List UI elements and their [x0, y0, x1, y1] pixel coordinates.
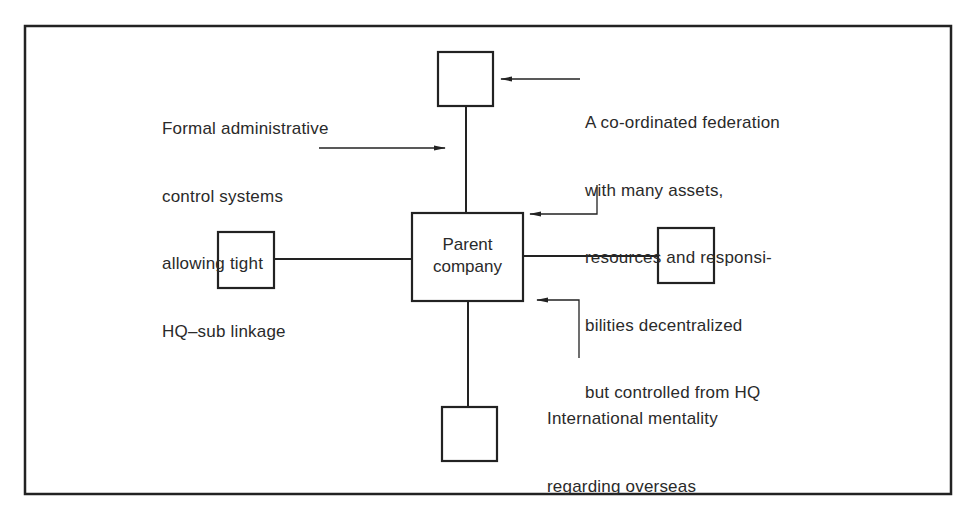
parent-company-label-line: Parent	[412, 234, 523, 256]
annotation-line: regarding overseas	[547, 476, 743, 499]
annotation-international-mentality: International mentality regarding overse…	[547, 363, 743, 523]
subsidiary-node-bottom	[442, 407, 497, 461]
annotation-line: A co-ordinated federation	[585, 112, 780, 135]
annotation-line: resources and responsi-	[585, 247, 780, 270]
annotation-line: HQ–sub linkage	[162, 321, 329, 344]
subsidiary-node-top	[438, 52, 493, 106]
annotation-formal-control: Formal administrative control systems al…	[162, 73, 329, 366]
annotation-line: International mentality	[547, 408, 743, 431]
arrow-elbow-to-parent-bottom	[537, 300, 579, 358]
annotation-line: with many assets,	[585, 180, 780, 203]
annotation-line: allowing tight	[162, 253, 329, 276]
annotation-line: control systems	[162, 186, 329, 209]
annotation-line: Formal administrative	[162, 118, 329, 141]
parent-company-label-line: company	[412, 256, 523, 278]
parent-company-label: Parent company	[412, 234, 523, 278]
annotation-line: bilities decentralized	[585, 315, 780, 338]
